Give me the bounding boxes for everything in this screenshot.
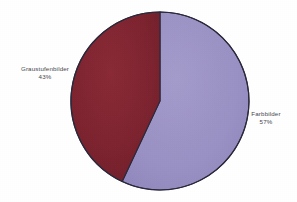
pie-chart-figure: Graustufenbilder 43% Farbbilder 57%	[0, 0, 297, 202]
slice-label-farbbilder: Farbbilder 57%	[240, 110, 292, 127]
slice-label-graustufenbilder-name: Graustufenbilder	[8, 65, 82, 73]
slice-label-graustufenbilder: Graustufenbilder 43%	[8, 65, 82, 82]
slice-label-graustufenbilder-percent: 43%	[8, 73, 82, 81]
pie-chart-svg	[0, 0, 297, 202]
slice-label-farbbilder-percent: 57%	[240, 118, 292, 126]
slice-label-farbbilder-name: Farbbilder	[240, 110, 292, 118]
